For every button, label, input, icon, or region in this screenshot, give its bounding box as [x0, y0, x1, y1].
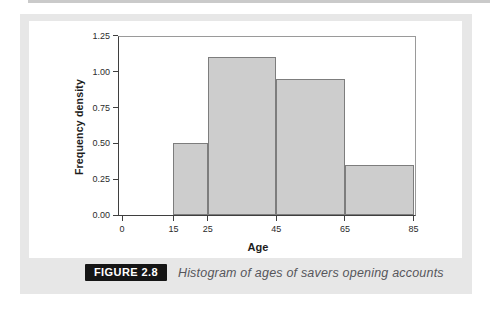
- x-tick: [344, 216, 345, 221]
- plot-frame: [118, 36, 417, 216]
- y-tick: [113, 35, 118, 36]
- x-tick-label: 85: [401, 224, 427, 234]
- figure-caption-text: Histogram of ages of savers opening acco…: [178, 266, 444, 280]
- histogram-plot: 0.000.250.500.751.001.2501525456585: [29, 21, 462, 258]
- x-tick: [173, 216, 174, 221]
- x-tick-label: 0: [109, 224, 135, 234]
- y-tick-label: 0.00: [80, 210, 110, 220]
- x-tick-label: 25: [195, 224, 221, 234]
- figure-panel: 0.000.250.500.751.001.2501525456585 Freq…: [20, 14, 472, 294]
- x-tick: [413, 216, 414, 221]
- figure-number-badge: FIGURE 2.8: [85, 264, 167, 281]
- y-tick-label: 1.25: [80, 31, 110, 41]
- page-scan-artifact-line: [28, 0, 490, 3]
- chart-area: 0.000.250.500.751.001.2501525456585 Freq…: [29, 21, 462, 258]
- x-tick: [122, 216, 123, 221]
- y-tick: [113, 143, 118, 144]
- x-tick-label: 45: [263, 224, 289, 234]
- x-tick-label: 15: [160, 224, 186, 234]
- y-tick-label: 1.00: [80, 67, 110, 77]
- y-tick: [113, 71, 118, 72]
- y-tick: [113, 107, 118, 108]
- x-axis-label: Age: [248, 241, 269, 253]
- y-tick-label: 0.25: [80, 174, 110, 184]
- y-axis-label: Frequency density: [73, 79, 85, 175]
- x-tick: [207, 216, 208, 221]
- x-tick: [276, 216, 277, 221]
- figure-caption: FIGURE 2.8Histogram of ages of savers op…: [85, 263, 444, 281]
- y-tick: [113, 215, 118, 216]
- y-tick: [113, 179, 118, 180]
- x-tick-label: 65: [332, 224, 358, 234]
